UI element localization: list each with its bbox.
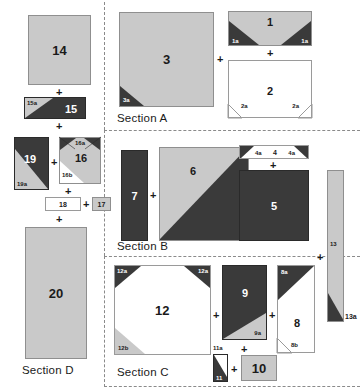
piece-20: 20 bbox=[25, 227, 87, 359]
piece-3: 3 3a bbox=[119, 12, 214, 107]
piece-8-label: 8 bbox=[294, 318, 300, 329]
piece-15a-label: 15a bbox=[27, 100, 37, 106]
piece-18: 18 bbox=[45, 197, 81, 211]
plus-sections-13: + bbox=[317, 252, 323, 263]
piece-2a-label-right: 2a bbox=[292, 103, 299, 109]
piece-6-dark-half bbox=[159, 147, 248, 240]
piece-7-label: 7 bbox=[122, 151, 147, 240]
plus-9-8: + bbox=[269, 310, 275, 321]
plus-16-1817: + bbox=[65, 186, 71, 197]
section-a-label: Section A bbox=[117, 112, 167, 124]
piece-2: 2 2a 2a bbox=[228, 60, 312, 118]
piece-1a-label-left: 1a bbox=[232, 38, 239, 44]
plus-98-1110: + bbox=[241, 344, 247, 355]
piece-1: 1 1a 1a bbox=[228, 11, 312, 46]
piece-19a-label: 19a bbox=[17, 181, 27, 187]
piece-11a-triangle bbox=[214, 355, 227, 377]
piece-6-label: 6 bbox=[190, 166, 196, 177]
plus-18-17: + bbox=[83, 199, 89, 210]
piece-16a-triangle-left bbox=[60, 138, 76, 150]
piece-13-label: 13 bbox=[330, 241, 337, 247]
piece-15: 15a 15 bbox=[24, 97, 86, 119]
piece-12-label: 12 bbox=[155, 304, 169, 317]
piece-8: 8a 8 8b bbox=[277, 265, 315, 353]
piece-20-label: 20 bbox=[26, 228, 86, 358]
piece-11-label: 11 bbox=[216, 375, 222, 381]
plus-12-9: + bbox=[213, 310, 219, 321]
piece-3a-triangle bbox=[120, 86, 144, 106]
piece-12b-label: 12b bbox=[118, 345, 128, 351]
piece-19-label: 19 bbox=[24, 154, 36, 165]
piece-17-label: 17 bbox=[93, 198, 110, 210]
divider-vertical-section-b bbox=[104, 130, 105, 256]
piece-13: 13 bbox=[327, 170, 344, 322]
piece-8a-label: 8a bbox=[281, 269, 288, 275]
piece-4a-label-left: 4a bbox=[255, 150, 262, 156]
piece-15-label: 15 bbox=[65, 104, 77, 115]
plus-11-10: + bbox=[231, 364, 237, 375]
piece-12: 12a 12a 12 12b bbox=[114, 265, 211, 355]
divider-vertical-left bbox=[104, 2, 105, 130]
piece-2a-label-left: 2a bbox=[241, 103, 248, 109]
piece-16a-label: 16a bbox=[75, 140, 85, 146]
piece-19: 19 19a bbox=[14, 137, 49, 190]
piece-14: 14 bbox=[28, 15, 91, 85]
section-d-label: Section D bbox=[22, 364, 74, 376]
plus-19-16: + bbox=[51, 157, 57, 168]
piece-10: 10 bbox=[241, 355, 277, 381]
piece-4a-triangle-left bbox=[240, 146, 254, 159]
piece-4a-triangle-right bbox=[294, 146, 308, 159]
piece-3a-label: 3a bbox=[123, 97, 130, 103]
piece-13a-label: 13a bbox=[345, 313, 357, 320]
plus-3-12: + bbox=[217, 54, 223, 65]
plus-15-1619: + bbox=[56, 121, 62, 132]
piece-4: 4a 4 4a bbox=[239, 145, 309, 159]
piece-16b-label: 16b bbox=[62, 172, 72, 178]
piece-11: 11 bbox=[213, 354, 228, 382]
divider-vertical-section-c bbox=[104, 256, 105, 387]
piece-13a-triangle bbox=[328, 293, 344, 321]
plus-1-2: + bbox=[267, 48, 273, 59]
piece-9a-label: 9a bbox=[254, 330, 261, 336]
quilt-piecing-diagram: 14 + 15a 15 + 19 19a + 16a 16 16b + 18 +… bbox=[0, 0, 364, 389]
piece-18-label: 18 bbox=[46, 198, 80, 210]
plus-17-20: + bbox=[56, 214, 62, 225]
divider-horizontal-section-a bbox=[104, 130, 360, 131]
piece-5: 5 bbox=[239, 170, 309, 241]
piece-1a-label-right: 1a bbox=[301, 38, 308, 44]
piece-14-label: 14 bbox=[29, 16, 90, 84]
piece-2-label: 2 bbox=[267, 86, 273, 97]
piece-5-label: 5 bbox=[240, 171, 308, 240]
section-c-label: Section C bbox=[117, 366, 169, 378]
piece-16: 16a 16 16b bbox=[59, 137, 101, 184]
piece-7: 7 bbox=[121, 150, 148, 241]
piece-9-label: 9 bbox=[242, 288, 248, 299]
piece-12a-label-right: 12a bbox=[198, 268, 208, 274]
piece-4a-label-right: 4a bbox=[288, 150, 295, 156]
divider-horizontal-section-c-bottom bbox=[104, 386, 360, 387]
piece-12a-label-left: 12a bbox=[117, 268, 127, 274]
section-b-label: Section B bbox=[117, 240, 168, 252]
piece-16a-triangle-right bbox=[84, 138, 100, 150]
piece-10-label: 10 bbox=[242, 356, 276, 380]
plus-7-6: + bbox=[150, 190, 156, 201]
piece-1-label: 1 bbox=[267, 17, 273, 28]
piece-4-label: 4 bbox=[273, 149, 277, 156]
piece-17: 17 bbox=[92, 197, 111, 211]
piece-8b-label: 8b bbox=[291, 342, 298, 348]
piece-6: 6 bbox=[159, 147, 249, 241]
piece-11a-label: 11a bbox=[213, 345, 223, 351]
piece-9: 9 9a bbox=[222, 265, 267, 340]
